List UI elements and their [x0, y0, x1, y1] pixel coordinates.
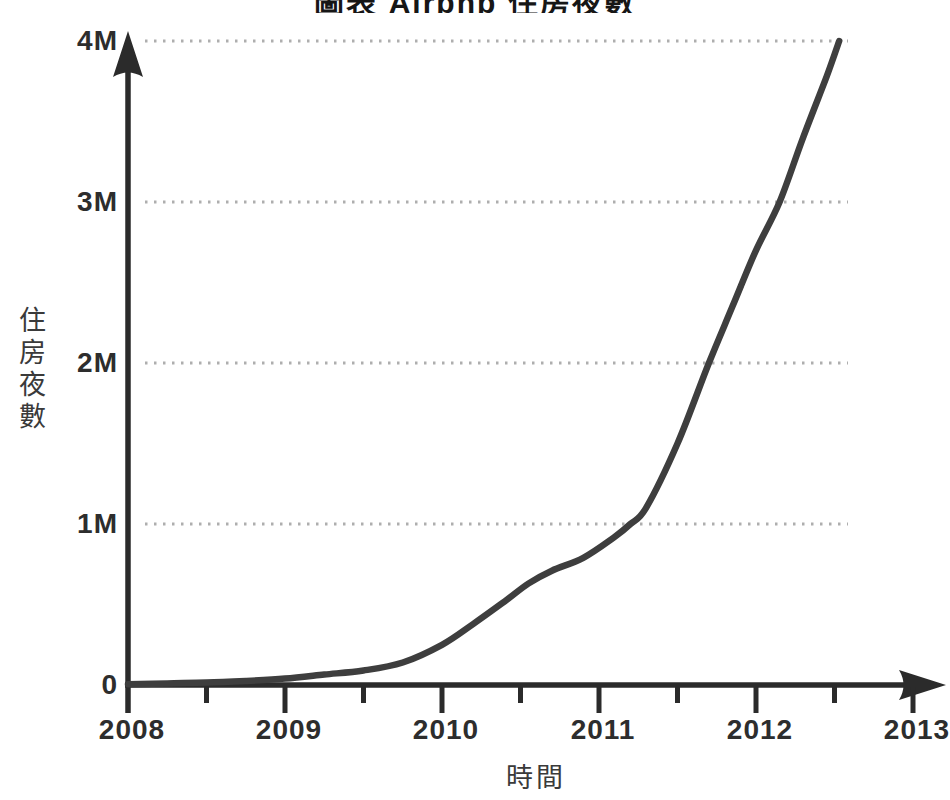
- line-chart-plot: [0, 0, 950, 800]
- chart-canvas: 圖表 Airbnb 住房夜數 01M2M3M4M 200820092010201…: [0, 0, 950, 800]
- y-axis-title: 住房夜數: [16, 306, 43, 434]
- x-tick-label-2013: 2013: [884, 714, 950, 746]
- y-tick-label-0: 0: [38, 669, 118, 701]
- x-axis-title: 時間: [436, 756, 636, 795]
- y-tick-label-3M: 3M: [38, 186, 118, 218]
- x-tick-label-2009: 2009: [256, 714, 322, 746]
- x-tick-label-2011: 2011: [571, 714, 636, 746]
- y-tick-label-4M: 4M: [38, 25, 118, 57]
- x-tick-label-2012: 2012: [727, 714, 793, 746]
- x-axis-arrowhead: [899, 670, 946, 700]
- y-tick-label-2M: 2M: [38, 347, 118, 379]
- x-tick-label-2008: 2008: [99, 714, 165, 746]
- x-tick-label-2010: 2010: [413, 714, 479, 746]
- y-tick-label-1M: 1M: [38, 508, 118, 540]
- data-curve-room-nights: [128, 41, 839, 684]
